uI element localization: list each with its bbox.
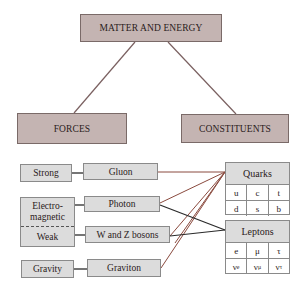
w-z-bosons-box: W and Z bosons xyxy=(85,226,170,243)
leptons-table: Leptons e μ τ νe νμ ντ xyxy=(225,220,290,274)
constituents-box: CONSTITUENTS xyxy=(181,114,289,143)
strong-force-label: Strong xyxy=(33,168,58,178)
matter-and-energy-box: MATTER AND ENERGY xyxy=(80,14,222,42)
neutrino-cell: νe xyxy=(226,259,246,274)
photon-box: Photon xyxy=(84,196,160,212)
weak-force-label: Weak xyxy=(37,232,58,242)
leptons-row-2: νe νμ ντ xyxy=(226,258,289,274)
gluon-box: Gluon xyxy=(83,163,158,180)
quarks-table: Quarks u c t d s b xyxy=(225,162,290,215)
quark-cell: u xyxy=(226,185,246,200)
quark-cell: c xyxy=(246,185,267,200)
graviton-box: Graviton xyxy=(87,259,161,277)
lepton-cell: τ xyxy=(268,243,289,258)
quarks-row-1: u c t xyxy=(226,185,289,200)
photon-label: Photon xyxy=(109,199,136,209)
constituents-label: CONSTITUENTS xyxy=(199,124,271,134)
wz-leptons-line xyxy=(170,230,225,236)
leptons-header: Leptons xyxy=(226,221,289,243)
quark-cell: s xyxy=(246,201,267,216)
root-to-forces-line xyxy=(74,42,135,113)
w-z-bosons-label: W and Z bosons xyxy=(97,230,159,240)
electromagnetic-label-line2: magnetic xyxy=(30,212,65,223)
gravity-force-box: Gravity xyxy=(21,260,74,278)
quarks-header: Quarks xyxy=(226,163,289,185)
quark-cell: t xyxy=(268,185,289,200)
quarks-row-2: d s b xyxy=(226,200,289,216)
strong-force-box: Strong xyxy=(20,164,72,182)
neutrino-cell: νμ xyxy=(246,259,267,274)
neutrino-cell: ντ xyxy=(268,259,289,274)
forces-box: FORCES xyxy=(17,113,127,144)
quark-cell: d xyxy=(226,201,246,216)
neutrino-subscript: τ xyxy=(280,264,282,270)
gravity-force-label: Gravity xyxy=(33,264,62,274)
weak-section: Weak xyxy=(21,227,74,246)
forces-label: FORCES xyxy=(54,124,91,134)
lepton-cell: μ xyxy=(246,243,267,258)
lepton-cell: e xyxy=(226,243,246,258)
electromagnetic-label-line1: Electro- xyxy=(32,201,63,212)
neutrino-subscript: e xyxy=(237,264,240,270)
electroweak-force-box: Electro- magnetic Weak xyxy=(20,197,75,247)
electromagnetic-section: Electro- magnetic xyxy=(21,198,74,227)
quark-cell: b xyxy=(268,201,289,216)
neutrino-subscript: μ xyxy=(258,264,261,270)
leptons-row-1: e μ τ xyxy=(226,243,289,258)
matter-and-energy-label: MATTER AND ENERGY xyxy=(99,23,202,33)
gluon-label: Gluon xyxy=(109,167,133,177)
graviton-label: Graviton xyxy=(107,263,141,273)
root-to-constituents-line xyxy=(168,42,236,114)
graviton-quarks-line xyxy=(161,172,225,268)
